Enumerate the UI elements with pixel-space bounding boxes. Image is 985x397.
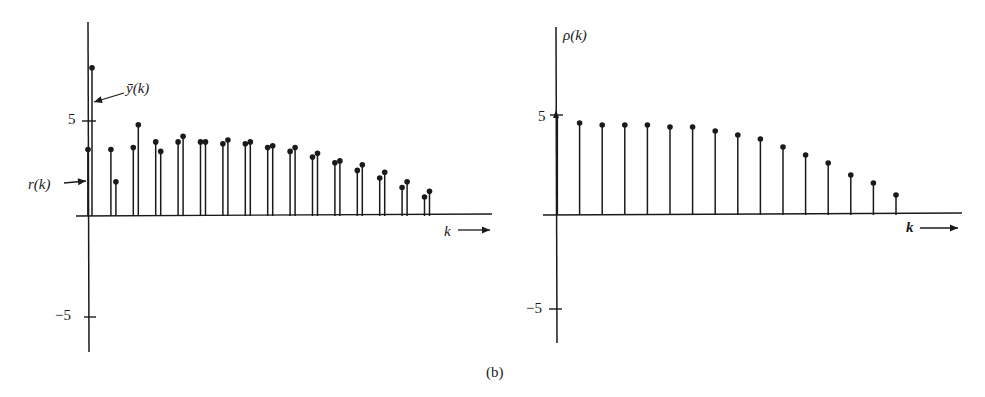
right-ytick-neg5: −5 (526, 300, 542, 317)
r-marker (377, 175, 383, 181)
rho-marker (622, 122, 628, 128)
r-marker (287, 149, 293, 155)
left-k-arrow-head (482, 227, 490, 234)
ybar-marker (180, 133, 186, 139)
rk-annotation: r(k) (28, 176, 51, 193)
rho-marker (599, 122, 605, 128)
rho-marker (871, 180, 877, 186)
rho-marker (735, 132, 741, 138)
right-k-arrow-head (950, 225, 958, 232)
ybar-marker (89, 65, 95, 71)
r-marker (131, 145, 137, 151)
r-marker (310, 154, 316, 160)
ybar-marker (292, 145, 298, 151)
r-marker (422, 194, 428, 200)
ybar-marker (203, 139, 209, 145)
stem-plots (0, 0, 985, 397)
ybar-marker (360, 162, 366, 168)
rho-marker (645, 122, 651, 128)
ybar-pointer-arrow-head (94, 96, 103, 103)
r-marker (198, 139, 204, 145)
r-marker (108, 147, 114, 153)
r-marker (85, 147, 91, 153)
rho-marker (848, 172, 854, 178)
right-x-axis (543, 213, 962, 215)
ybar-marker (225, 137, 231, 143)
ybar-marker (404, 179, 410, 185)
rho-marker (577, 120, 583, 126)
rho-marker (893, 192, 899, 198)
rho-marker (758, 136, 764, 142)
ybar-marker (136, 122, 142, 128)
r-marker (153, 139, 159, 145)
ybar-marker (315, 151, 321, 157)
r-marker (332, 160, 338, 166)
ybar-marker (427, 189, 433, 195)
r-marker (355, 168, 361, 174)
ybar-marker (113, 179, 119, 185)
ybar-marker (270, 143, 276, 149)
ybar-annotation: ȳ(k) (126, 80, 149, 97)
left-ytick-5: 5 (68, 111, 76, 128)
ybar-marker (158, 149, 164, 155)
rho-marker (803, 152, 809, 158)
r-marker (175, 139, 181, 145)
right-ytick-5: 5 (538, 108, 546, 125)
rho-marker (712, 128, 718, 134)
r-marker (399, 185, 405, 191)
left-x-axis-label: k (444, 223, 451, 240)
r-marker (220, 141, 226, 147)
right-x-axis-label: k (906, 219, 914, 236)
r-marker (243, 141, 249, 147)
figure-caption: (b) (486, 364, 504, 381)
r-marker (265, 145, 271, 151)
rho-marker (780, 144, 786, 150)
ybar-marker (337, 158, 343, 164)
rho-marker (667, 124, 673, 130)
right-y-axis-label: ρ(k) (563, 27, 587, 44)
rho-marker (825, 160, 831, 166)
ybar-marker (248, 139, 254, 145)
left-ytick-neg5: −5 (55, 307, 71, 324)
ybar-marker (382, 170, 388, 176)
rho-marker (690, 124, 696, 130)
